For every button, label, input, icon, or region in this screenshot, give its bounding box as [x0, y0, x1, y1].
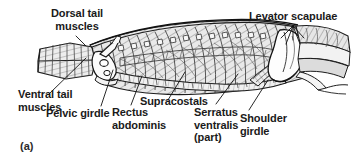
panel-letter: (a) — [20, 140, 33, 152]
label-shoulder-girdle: Shoulder girdle — [240, 112, 287, 137]
label-pelvic-girdle: Pelvic girdle — [46, 107, 110, 120]
head-neck-region — [296, 25, 350, 94]
label-levator-scapulae: Levator scapulae — [249, 10, 337, 23]
label-serratus-ventralis: Serratus ventralis (part) — [194, 106, 238, 144]
label-rectus-abdominis: Rectus abdominis — [112, 106, 166, 131]
label-dorsal-tail-muscles: Dorsal tail muscles — [38, 7, 116, 32]
anatomical-figure: Dorsal tail muscles Ventral tail muscles… — [0, 0, 353, 166]
tail-region — [38, 43, 96, 79]
